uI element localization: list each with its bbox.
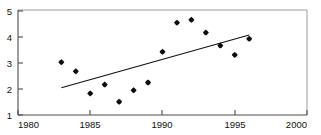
y-tick-label-2: 2 [7,84,12,95]
y-tick-label-3: 3 [7,58,12,69]
chart-figure: Changes in Average Yearly Spawning Escap… [0,0,321,135]
scatter-plot: 5 4 3 2 1 1980 1985 1990 1995 2000 [0,0,321,135]
data-point [116,99,122,105]
x-tick-label-1980: 1980 [18,119,39,130]
data-point [87,90,93,96]
data-point [73,68,79,74]
y-tick-label-4: 4 [7,32,12,43]
y-tick-label-5: 5 [7,6,12,17]
data-point [131,87,137,93]
data-point [58,59,64,65]
trend-line [61,35,249,88]
data-point [188,17,194,23]
data-point [246,36,252,42]
data-point [174,20,180,26]
x-tick-label-1995: 1995 [224,119,245,130]
x-axis-ticks [18,110,307,115]
y-tick-label-1: 1 [7,110,12,121]
data-point [160,49,166,55]
x-tick-label-1990: 1990 [151,119,172,130]
x-tick-label-2000: 2000 [286,119,307,130]
x-tick-label-1985: 1985 [79,119,100,130]
data-point [102,82,108,88]
x-axis-tick-labels: 1980 1985 1990 1995 2000 [18,119,307,130]
y-axis-tick-labels: 5 4 3 2 1 [7,6,12,121]
data-point [203,30,209,36]
data-point [232,52,238,58]
y-axis-ticks [18,11,23,115]
data-point [145,80,151,86]
